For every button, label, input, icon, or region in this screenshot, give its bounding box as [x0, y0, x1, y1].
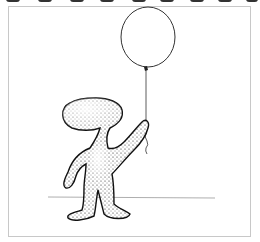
figure-icon [63, 98, 149, 220]
ground-line [48, 197, 215, 198]
balloon-string-icon [145, 70, 148, 154]
balloon-figure-illustration [0, 0, 260, 242]
balloon-icon [121, 7, 175, 67]
